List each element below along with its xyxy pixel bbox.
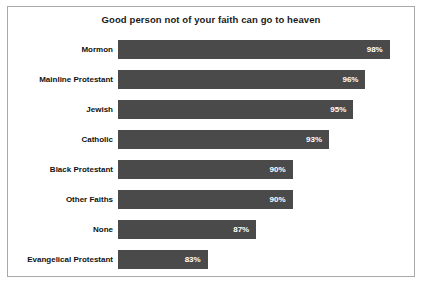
bar-track: 93% bbox=[118, 130, 414, 149]
bar-row: Evangelical Protestant83% bbox=[8, 250, 414, 269]
bar-category-label: Other Faiths bbox=[8, 190, 113, 209]
bar-row: None87% bbox=[8, 220, 414, 239]
bar-category-label: None bbox=[8, 220, 113, 239]
bar-track: 98% bbox=[118, 40, 414, 59]
bar-category-label: Catholic bbox=[8, 130, 113, 149]
bar: 96% bbox=[118, 70, 365, 89]
bar-track: 83% bbox=[118, 250, 414, 269]
plot-area: Mormon98%Mainline Protestant96%Jewish95%… bbox=[8, 34, 414, 276]
bar-value-label: 83% bbox=[185, 250, 201, 269]
chart-container: Good person not of your faith can go to … bbox=[7, 6, 415, 277]
bar-value-label: 93% bbox=[306, 130, 322, 149]
bar: 98% bbox=[118, 40, 390, 59]
bar-category-label: Black Protestant bbox=[8, 160, 113, 179]
bar-track: 90% bbox=[118, 190, 414, 209]
bar-track: 95% bbox=[118, 100, 414, 119]
bar: 93% bbox=[118, 130, 329, 149]
bar-value-label: 95% bbox=[330, 100, 346, 119]
bar-track: 87% bbox=[118, 220, 414, 239]
bar-row: Jewish95% bbox=[8, 100, 414, 119]
bar: 90% bbox=[118, 160, 293, 179]
bar-row: Mainline Protestant96% bbox=[8, 70, 414, 89]
bar-row: Other Faiths90% bbox=[8, 190, 414, 209]
bar-track: 90% bbox=[118, 160, 414, 179]
chart-title: Good person not of your faith can go to … bbox=[8, 14, 414, 25]
bar-value-label: 87% bbox=[233, 220, 249, 239]
bar-category-label: Evangelical Protestant bbox=[8, 250, 113, 269]
bar-value-label: 90% bbox=[270, 160, 286, 179]
bar-value-label: 96% bbox=[342, 70, 358, 89]
bar-row: Black Protestant90% bbox=[8, 160, 414, 179]
bar-value-label: 90% bbox=[270, 190, 286, 209]
bar-track: 96% bbox=[118, 70, 414, 89]
bar-category-label: Mormon bbox=[8, 40, 113, 59]
bar-row: Mormon98% bbox=[8, 40, 414, 59]
bar: 90% bbox=[118, 190, 293, 209]
bar: 83% bbox=[118, 250, 208, 269]
bar: 95% bbox=[118, 100, 353, 119]
bar-row: Catholic93% bbox=[8, 130, 414, 149]
bar-category-label: Mainline Protestant bbox=[8, 70, 113, 89]
bar-value-label: 98% bbox=[367, 40, 383, 59]
bar-category-label: Jewish bbox=[8, 100, 113, 119]
bar: 87% bbox=[118, 220, 256, 239]
